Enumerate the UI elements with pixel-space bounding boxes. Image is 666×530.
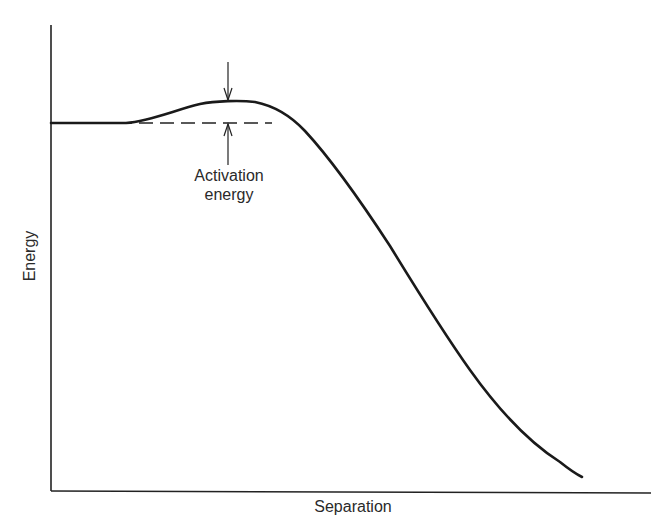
x-axis [51,491,651,493]
arrow-down-icon [224,62,232,100]
energy-diagram [0,0,666,530]
y-axis-label: Energy [21,231,39,282]
arrow-up-icon [224,124,232,165]
annotation-line-1: Activation [179,166,279,185]
activation-energy-label: Activation energy [179,166,279,204]
annotation-line-2: energy [179,185,279,204]
x-axis-label: Separation [0,498,666,516]
energy-curve [51,101,582,477]
